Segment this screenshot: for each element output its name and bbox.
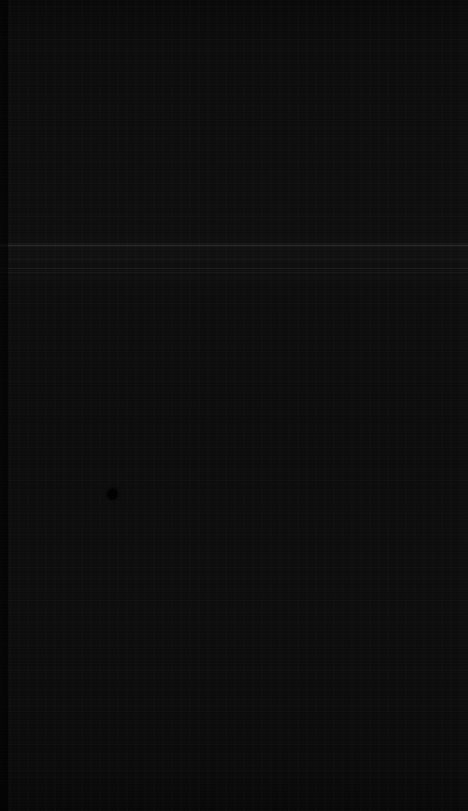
screen-capture-root (0, 0, 468, 811)
right-edge-scroll-track[interactable] (461, 0, 468, 811)
cursor-marker (108, 489, 117, 499)
screen-background-surface (0, 0, 468, 811)
